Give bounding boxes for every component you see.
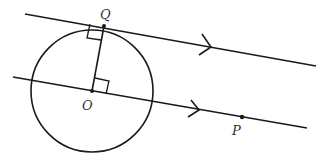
geometry-diagram: Q O P xyxy=(0,0,323,161)
point-q xyxy=(102,24,106,28)
label-q: Q xyxy=(100,7,111,22)
label-p: P xyxy=(231,123,241,138)
label-o: O xyxy=(82,98,93,113)
point-p xyxy=(240,115,244,119)
diagram-canvas: Q O P xyxy=(0,0,323,161)
tangent-line xyxy=(25,14,316,66)
point-o xyxy=(90,89,94,93)
line-op xyxy=(13,77,307,128)
radius-oq xyxy=(92,26,104,91)
parallel-arrow-icon-top xyxy=(199,34,211,55)
